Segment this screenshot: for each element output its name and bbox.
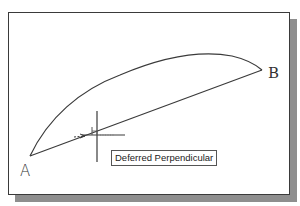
perpendicular-snap-marker-icon [92, 127, 114, 135]
snap-tooltip: Deferred Perpendicular [111, 150, 217, 166]
line-a-to-b[interactable] [30, 70, 262, 156]
drawing-canvas[interactable] [0, 0, 300, 206]
point-a-label: A [20, 164, 30, 179]
point-b-label: B [268, 66, 279, 81]
arc-a-to-b[interactable] [30, 54, 262, 156]
